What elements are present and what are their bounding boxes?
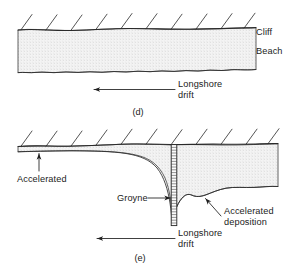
label-deposition-e-line1: Accelerated (224, 206, 274, 216)
deposition-leader (206, 199, 222, 217)
label-deposition-e-line2: deposition (224, 217, 267, 227)
panel-d: Cliff Beach Longshore drift (d) (18, 13, 283, 117)
figure-canvas: Cliff Beach Longshore drift (d) (0, 0, 293, 267)
label-cliff-d: Cliff (256, 27, 273, 37)
beach-body-e-right (176, 144, 278, 209)
label-beach-d: Beach (256, 46, 283, 56)
cliff-hachures-d (21, 13, 255, 30)
caption-panel-d: (d) (132, 107, 143, 117)
label-drift-d-line1: Longshore (178, 79, 222, 89)
eroded-shoreline-e (18, 151, 172, 223)
beach-body-d (18, 28, 256, 73)
label-drift-d-line2: drift (178, 90, 194, 100)
label-drift-e-line2: drift (178, 239, 194, 249)
label-accelerated-e: Accelerated (17, 174, 67, 184)
coastal-process-figure: Cliff Beach Longshore drift (d) (0, 0, 293, 267)
label-drift-e-line1: Longshore (178, 228, 222, 238)
caption-panel-e: (e) (134, 253, 145, 263)
panel-e: Accelerated Groyne Accelerated depositio… (17, 129, 279, 263)
label-groyne-e: Groyne (117, 193, 148, 203)
groyne (171, 145, 177, 226)
